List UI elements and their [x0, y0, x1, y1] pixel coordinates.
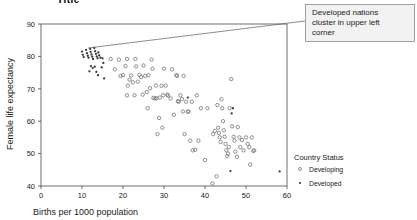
data-point: [90, 53, 92, 55]
data-point: [160, 84, 163, 87]
legend-item-developing[interactable]: Developing: [299, 166, 344, 174]
x-axis-title: Births per 1000 population: [33, 207, 138, 217]
data-point: [215, 175, 218, 178]
series-developing: [109, 57, 256, 185]
data-point: [180, 97, 183, 100]
data-point: [156, 132, 159, 135]
data-point: [87, 57, 89, 59]
data-point: [190, 100, 193, 103]
data-point: [184, 100, 187, 103]
data-point: [86, 52, 88, 54]
data-point: [150, 58, 153, 61]
data-point: [128, 78, 131, 81]
data-point: [117, 58, 120, 61]
legend-label-developed: Developed: [309, 180, 342, 188]
data-point: [206, 107, 209, 110]
data-point: [97, 74, 99, 76]
data-point: [94, 66, 96, 68]
data-point: [213, 129, 216, 132]
data-point: [217, 131, 220, 134]
data-point: [88, 70, 90, 72]
x-tick-label: 50: [242, 191, 250, 200]
filled-dot-icon: [299, 182, 301, 184]
data-point: [161, 126, 164, 129]
data-point: [113, 68, 116, 71]
data-point: [236, 125, 239, 128]
series-developed: [81, 47, 281, 173]
data-point: [189, 139, 192, 142]
plot-frame: [41, 24, 287, 186]
data-point: [171, 68, 174, 71]
data-point: [216, 126, 219, 129]
data-point: [82, 54, 84, 56]
x-axis-ticks: 0102030405060: [39, 186, 291, 200]
data-point: [130, 74, 133, 77]
chart-canvas: 405060708090 0102030405060 Female life e…: [0, 0, 417, 220]
scatter-plot-figure: Title 405060708090 0102030405060 Female …: [0, 0, 417, 220]
data-point: [141, 93, 144, 96]
legend-item-developed[interactable]: Developed: [299, 180, 342, 188]
callout-line-3: corner: [312, 28, 335, 37]
data-point: [124, 64, 127, 67]
y-tick-label: 40: [27, 182, 35, 191]
data-point: [164, 84, 167, 87]
data-point: [136, 80, 139, 83]
data-point: [85, 49, 87, 51]
data-point: [94, 50, 96, 52]
data-point: [82, 56, 84, 58]
y-axis-title: Female life expectancy: [5, 57, 15, 150]
data-point: [125, 57, 128, 60]
data-point: [147, 73, 150, 76]
x-tick-label: 60: [283, 191, 291, 200]
data-point: [182, 74, 185, 77]
data-point: [158, 96, 161, 99]
data-point: [101, 66, 103, 68]
data-point: [242, 149, 245, 152]
data-point: [101, 57, 103, 59]
open-circle-icon: [299, 168, 302, 171]
data-point: [172, 113, 175, 116]
data-point: [98, 54, 100, 56]
data-point: [212, 132, 215, 135]
data-point: [99, 57, 101, 59]
data-point: [81, 50, 83, 52]
data-point: [235, 155, 238, 158]
data-point: [157, 116, 160, 119]
data-point: [95, 53, 97, 55]
data-point: [146, 107, 149, 110]
data-point: [232, 107, 234, 109]
data-point: [162, 67, 165, 70]
data-point: [131, 81, 134, 84]
data-point: [232, 135, 235, 138]
y-tick-label: 70: [27, 85, 35, 94]
x-tick-label: 20: [119, 191, 127, 200]
y-axis-ticks: 405060708090: [27, 20, 41, 191]
data-point: [187, 96, 189, 98]
data-point: [234, 150, 237, 153]
y-tick-label: 90: [27, 20, 35, 29]
data-point: [246, 142, 249, 145]
data-point: [233, 139, 236, 142]
data-point: [154, 84, 157, 87]
data-point: [223, 135, 226, 138]
data-point: [228, 107, 231, 110]
data-point: [142, 64, 145, 67]
data-point: [96, 57, 98, 59]
y-tick-label: 50: [27, 149, 35, 158]
data-point: [134, 65, 137, 68]
data-point: [169, 97, 172, 100]
data-point: [161, 94, 164, 97]
data-point: [125, 94, 128, 97]
data-point: [90, 65, 92, 67]
legend-label-developing: Developing: [309, 166, 343, 174]
data-point: [102, 62, 104, 64]
data-point: [92, 58, 94, 60]
data-point: [109, 57, 112, 60]
data-point: [97, 51, 99, 53]
chart-title-clipped: Title: [57, 0, 80, 5]
data-point: [250, 136, 253, 139]
data-point: [220, 97, 223, 100]
data-point: [181, 110, 184, 113]
data-point: [229, 170, 231, 172]
data-points-layer: [81, 47, 281, 185]
